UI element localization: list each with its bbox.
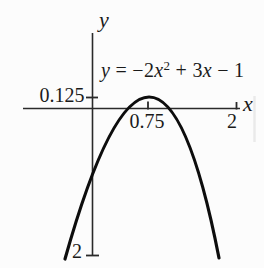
equation-eq-coef: = −2	[110, 59, 154, 81]
equation-y: y	[101, 59, 110, 81]
parabola-figure: y = −2x2 + 3x − 1 y x 0.125 0.75 2 2	[0, 0, 264, 268]
y-tick-label-0125: 0.125	[40, 85, 85, 105]
equation-const: − 1	[212, 59, 244, 81]
y-tick-label-bottom: 2	[72, 241, 82, 261]
equation-exponent: 2	[163, 58, 170, 73]
equation-label: y = −2x2 + 3x − 1	[101, 60, 244, 80]
x-tick-label-075: 0.75	[130, 111, 165, 131]
x-axis-label: x	[243, 93, 253, 115]
equation-mid: + 3	[170, 59, 202, 81]
x-tick-label-2: 2	[227, 111, 237, 131]
equation-x2: x	[203, 59, 212, 81]
plot-canvas	[0, 0, 264, 268]
y-axis-label: y	[99, 9, 109, 31]
